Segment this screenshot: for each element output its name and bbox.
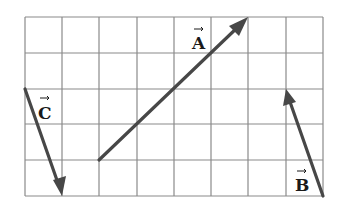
arrowhead-icon [283, 89, 296, 106]
label-a: A [191, 27, 206, 53]
svg-text:B: B [295, 175, 309, 195]
label-b: B [295, 169, 309, 195]
label-c: C [38, 96, 52, 123]
svg-text:C: C [38, 103, 52, 123]
svg-text:A: A [191, 33, 206, 53]
vector-diagram: A C B [0, 0, 342, 206]
grid [25, 17, 323, 196]
